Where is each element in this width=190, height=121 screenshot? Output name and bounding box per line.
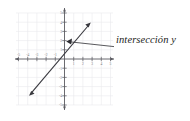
y-tick-label: -2 bbox=[59, 76, 62, 80]
annotation-arrowhead bbox=[66, 39, 72, 45]
x-axis-arrow-right bbox=[111, 58, 115, 61]
coordinate-plane-graph: -5 -4 -3 -2 -1 1 2 3 4 5 5 bbox=[0, 0, 190, 121]
line-arrow-upper-right bbox=[85, 23, 91, 28]
figure-container: -5 -4 -3 -2 -1 1 2 3 4 5 5 bbox=[0, 0, 190, 121]
x-tick-label: 3 bbox=[91, 62, 93, 66]
y-tick-label: 5 bbox=[60, 11, 62, 15]
annotation-pointer bbox=[66, 39, 114, 47]
y-tick-label: -5 bbox=[59, 103, 62, 107]
y-tick-label: 2 bbox=[60, 39, 62, 43]
x-axis-arrow-left bbox=[15, 58, 19, 61]
x-tick-label: 4 bbox=[100, 62, 102, 66]
y-tick-label: 1 bbox=[60, 48, 62, 52]
line-arrow-lower-left bbox=[29, 91, 35, 96]
y-tick-label: -4 bbox=[59, 94, 62, 98]
x-tick-label: 2 bbox=[82, 62, 84, 66]
x-tick-label: -4 bbox=[26, 53, 29, 57]
y-axis-arrow-down bbox=[63, 107, 66, 111]
y-tick-label: -1 bbox=[59, 67, 62, 71]
y-tick-label: 4 bbox=[60, 21, 62, 25]
y-tick-label: -3 bbox=[59, 85, 62, 89]
x-tick-label: -5 bbox=[17, 53, 20, 57]
x-tick-label: 1 bbox=[73, 62, 75, 66]
x-tick-label: 5 bbox=[110, 62, 112, 66]
x-tick-label: -1 bbox=[54, 53, 57, 57]
y-axis-arrow-up bbox=[63, 8, 66, 12]
y-tick-label: 3 bbox=[60, 30, 62, 34]
x-tick-label: -3 bbox=[35, 53, 38, 57]
x-tick-label: -2 bbox=[45, 53, 48, 57]
y-intercept-annotation-label: intersección y bbox=[116, 34, 176, 45]
